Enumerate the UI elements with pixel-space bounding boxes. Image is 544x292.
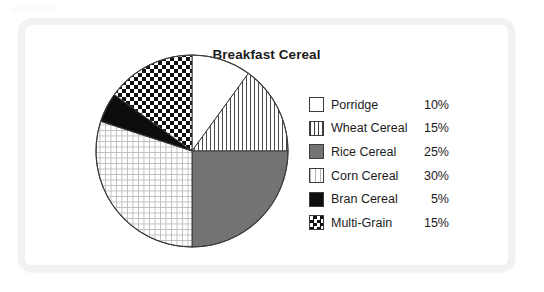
legend-row[interactable]: Corn Cereal30% [309, 164, 449, 188]
pie-slice-group [96, 55, 288, 247]
legend-row[interactable]: Porridge10% [309, 93, 449, 117]
legend-value: 15% [415, 216, 449, 230]
legend-label: Porridge [331, 98, 415, 112]
legend-label: Wheat Cereal [331, 121, 415, 135]
pie-chart [94, 53, 290, 249]
pie-chart-svg [94, 53, 290, 249]
legend-label: Multi-Grain [331, 216, 415, 230]
legend-row[interactable]: Bran Cereal5% [309, 187, 449, 211]
legend-row[interactable]: Rice Cereal25% [309, 140, 449, 164]
chart-card: Breakfast Cereal [18, 18, 515, 272]
legend-swatch-vertical-lines-icon [309, 121, 324, 136]
legend-swatch-solid-gray-icon [309, 144, 324, 159]
legend-swatch-checkerboard-icon [309, 215, 324, 230]
legend-swatch-grid-icon [309, 168, 324, 183]
chart-legend: Porridge10%Wheat Cereal15%Rice Cereal25%… [309, 93, 449, 235]
legend-row[interactable]: Multi-Grain15% [309, 211, 449, 235]
legend-swatch-empty-icon [309, 97, 324, 112]
legend-swatch-solid-black-icon [309, 192, 324, 207]
pie-slice-rice-cereal[interactable] [192, 151, 288, 247]
chart-card-inner: Breakfast Cereal [25, 25, 508, 265]
legend-row[interactable]: Wheat Cereal15% [309, 117, 449, 141]
legend-label: Corn Cereal [331, 169, 415, 183]
legend-value: 15% [415, 121, 449, 135]
legend-value: 10% [415, 98, 449, 112]
legend-value: 30% [415, 169, 449, 183]
legend-label: Bran Cereal [331, 192, 415, 206]
legend-value: 25% [415, 145, 449, 159]
corner-artifact [12, 6, 56, 13]
legend-label: Rice Cereal [331, 145, 415, 159]
legend-value: 5% [415, 192, 449, 206]
